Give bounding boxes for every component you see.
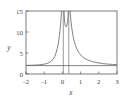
x-tick-label: 1 [79, 78, 83, 86]
x-tick-label: 2 [97, 78, 101, 86]
y-tick-label: 15 [16, 8, 24, 16]
x-tick-label: 0 [61, 78, 65, 86]
y-axis-label: y [6, 43, 11, 52]
y-tick-label: 10 [16, 29, 24, 37]
y-tick-label: 0 [20, 71, 24, 79]
x-tick-label: -2 [23, 78, 29, 86]
x-tick-label: -1 [41, 78, 47, 86]
x-axis-label: x [68, 88, 73, 97]
y-tick-label: 5 [20, 50, 24, 58]
chart-svg: -2-10123 051015 x y [0, 0, 124, 99]
plot-figure: -2-10123 051015 x y [0, 0, 124, 99]
x-tick-label: 3 [115, 78, 119, 86]
